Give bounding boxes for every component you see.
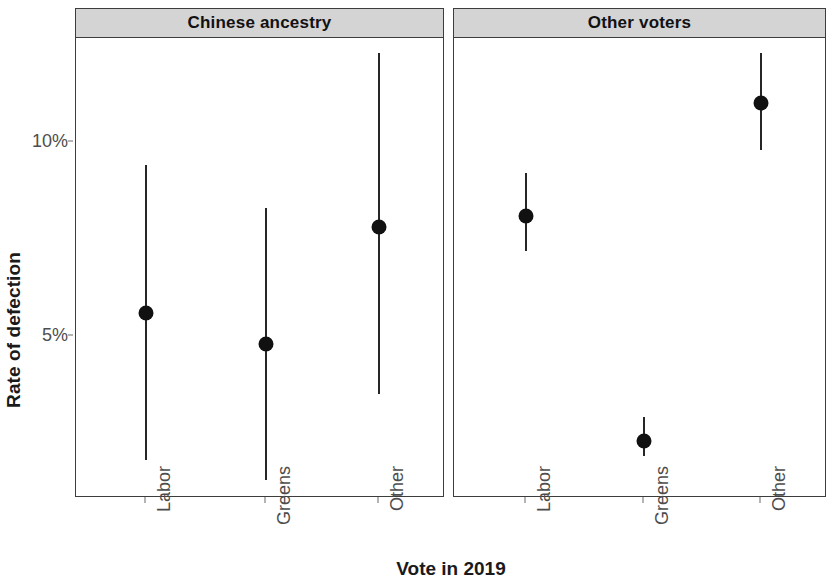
x-axis-tick-mark [760,497,761,503]
panel-chinese-ancestry: Chinese ancestry [75,8,444,497]
x-axis-tick-mark [378,497,379,503]
x-axis-tick-label: Greens [274,466,295,546]
data-point [754,96,769,111]
x-axis-tick-mark [643,497,644,503]
data-point [139,305,154,320]
x-axis-title: Vote in 2019 [396,558,505,580]
data-point [637,433,652,448]
x-axis-tick-label: Labor [154,466,175,546]
y-axis-tick-10: 10% [0,141,68,142]
panel-strip-label: Other voters [453,8,826,38]
y-axis-tick-label: 10% [32,131,68,152]
x-axis-tick-mark [265,497,266,503]
y-axis-tick-label: 5% [42,325,68,346]
data-point [519,208,534,223]
y-axis-tick-mark [68,141,73,142]
x-axis-tick-label: Other [387,466,408,546]
x-axis-tick-label: Other [769,466,790,546]
x-axis-tick-mark [145,497,146,503]
y-axis-tick-5: 5% [0,335,68,336]
y-axis-title: Rate of defection [0,170,28,490]
data-point [259,336,274,351]
x-axis-tick-mark [525,497,526,503]
panel-strip-label: Chinese ancestry [75,8,444,38]
chart-figure: Rate of defection 10% 5% Chinese ancestr… [0,0,827,588]
data-point [372,220,387,235]
x-axis-tick-label: Labor [534,466,555,546]
plot-area [454,38,825,496]
x-axis-tick-label: Greens [652,466,673,546]
plot-area [76,38,443,496]
panel-other-voters: Other voters [453,8,826,497]
y-axis-tick-mark [68,335,73,336]
